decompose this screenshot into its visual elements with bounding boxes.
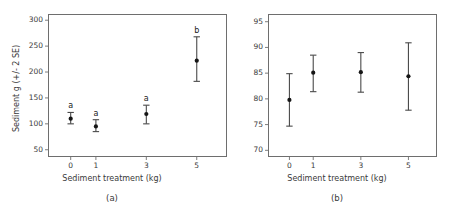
x-axis-title-b: Sediment treatment (kg) xyxy=(225,174,449,183)
group-letter-label: a xyxy=(91,109,101,118)
figure-container: Sediment g (+/- 2 SE) Sediment treatment… xyxy=(0,0,449,212)
y-tick-label-a: 150 xyxy=(21,94,43,102)
y-tick-label-b: 90 xyxy=(241,43,263,51)
panel-b: Sediment treatment (kg) (b) 707580859095… xyxy=(225,0,449,212)
y-tick-label-a: 100 xyxy=(21,120,43,128)
plot-frame-a xyxy=(48,14,227,157)
y-axis-title-a: Sediment g (+/- 2 SE) xyxy=(12,44,21,131)
y-tick-label-b: 75 xyxy=(241,121,263,129)
x-tick-label-a: 3 xyxy=(139,162,153,170)
y-tick-label-a: 300 xyxy=(21,16,43,24)
x-tick-label-a: 5 xyxy=(190,162,204,170)
y-tick-label-b: 80 xyxy=(241,95,263,103)
panel-a: Sediment g (+/- 2 SE) Sediment treatment… xyxy=(0,0,224,212)
x-tick-label-a: 0 xyxy=(64,162,78,170)
plot-frame-b xyxy=(268,14,437,157)
x-tick-label-b: 0 xyxy=(282,162,296,170)
y-tick-label-a: 250 xyxy=(21,42,43,50)
group-letter-label: a xyxy=(66,101,76,110)
x-tick-label-b: 1 xyxy=(306,162,320,170)
y-tick-label-b: 95 xyxy=(241,18,263,26)
x-tick-label-b: 3 xyxy=(354,162,368,170)
y-tick-label-b: 70 xyxy=(241,146,263,154)
x-tick-label-b: 5 xyxy=(401,162,415,170)
y-tick-label-b: 85 xyxy=(241,69,263,77)
group-letter-label: a xyxy=(141,94,151,103)
x-tick-label-a: 1 xyxy=(89,162,103,170)
x-axis-title-a: Sediment treatment (kg) xyxy=(0,174,224,183)
y-tick-label-a: 200 xyxy=(21,68,43,76)
panel-caption-b: (b) xyxy=(225,193,449,203)
y-tick-label-a: 50 xyxy=(21,146,43,154)
group-letter-label: b xyxy=(192,26,202,35)
panel-caption-a: (a) xyxy=(0,193,224,203)
